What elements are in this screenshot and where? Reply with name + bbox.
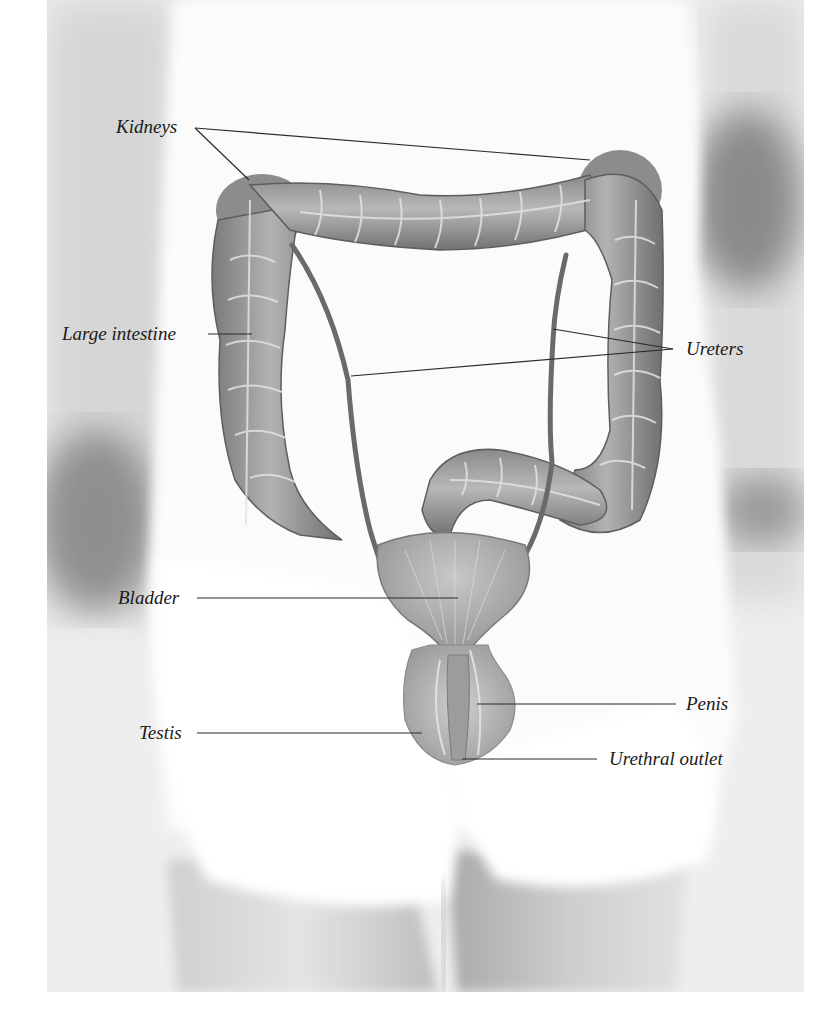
label-bladder: Bladder: [118, 588, 179, 607]
label-testis: Testis: [139, 723, 182, 742]
kidneys-leader-left: [195, 128, 249, 180]
bladder: [377, 533, 529, 661]
label-kidneys: Kidneys: [116, 117, 177, 136]
anatomy-figure: Kidneys Large intestine Ureters Bladder …: [0, 0, 838, 1031]
label-urethral-outlet: Urethral outlet: [609, 749, 723, 768]
label-ureters: Ureters: [686, 339, 743, 358]
kidneys-leader-right: [195, 128, 590, 160]
label-penis: Penis: [686, 694, 728, 713]
large-intestine: [212, 174, 663, 540]
organ-illustration: [0, 0, 838, 1031]
label-large-intestine: Large intestine: [62, 324, 176, 343]
